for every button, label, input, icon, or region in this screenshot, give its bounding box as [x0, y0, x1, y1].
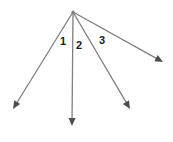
- angle-label-3: 3: [99, 35, 105, 46]
- ray-down-left: [16, 12, 73, 105]
- diagram-canvas: 1 2 3: [0, 0, 173, 142]
- ray-down-left-arrowhead-icon: [13, 100, 20, 109]
- ray-down-right-arrowhead-icon: [123, 100, 130, 109]
- angle-label-2: 2: [76, 40, 82, 51]
- ray-right: [73, 12, 159, 60]
- ray-down-right: [73, 12, 127, 105]
- ray-down-arrowhead-icon: [69, 118, 76, 126]
- angle-label-1: 1: [60, 36, 66, 47]
- vertex-dot: [71, 10, 74, 13]
- angle-diagram: [0, 0, 173, 142]
- ray-down: [72, 12, 73, 121]
